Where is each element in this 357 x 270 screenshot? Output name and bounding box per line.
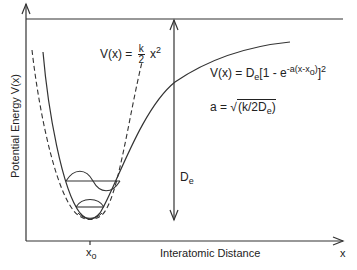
harmonic-equation: V(x) = k2 x2	[100, 44, 161, 65]
x-axis-label: Interatomic Distance	[160, 247, 260, 259]
y-axis-label: Potential Energy V(x)	[9, 56, 21, 196]
de-label: De	[180, 170, 194, 186]
a-equation: a = √(k/2De)	[210, 100, 276, 116]
wavefunction-0	[76, 200, 104, 208]
fraction: k2	[138, 44, 145, 65]
morse-equation: V(x) = De[1 - e-a(x-xo)]2	[210, 64, 326, 82]
x0-tick-label: xo	[86, 246, 97, 261]
harmonic-curve	[32, 50, 142, 220]
x-axis-variable: x	[340, 247, 346, 259]
sqrt-content: (k/2De)	[237, 99, 276, 114]
axes	[22, 4, 343, 245]
potential-energy-diagram	[0, 0, 357, 270]
sqrt-icon: √	[230, 100, 237, 114]
de-arrow	[170, 20, 178, 220]
